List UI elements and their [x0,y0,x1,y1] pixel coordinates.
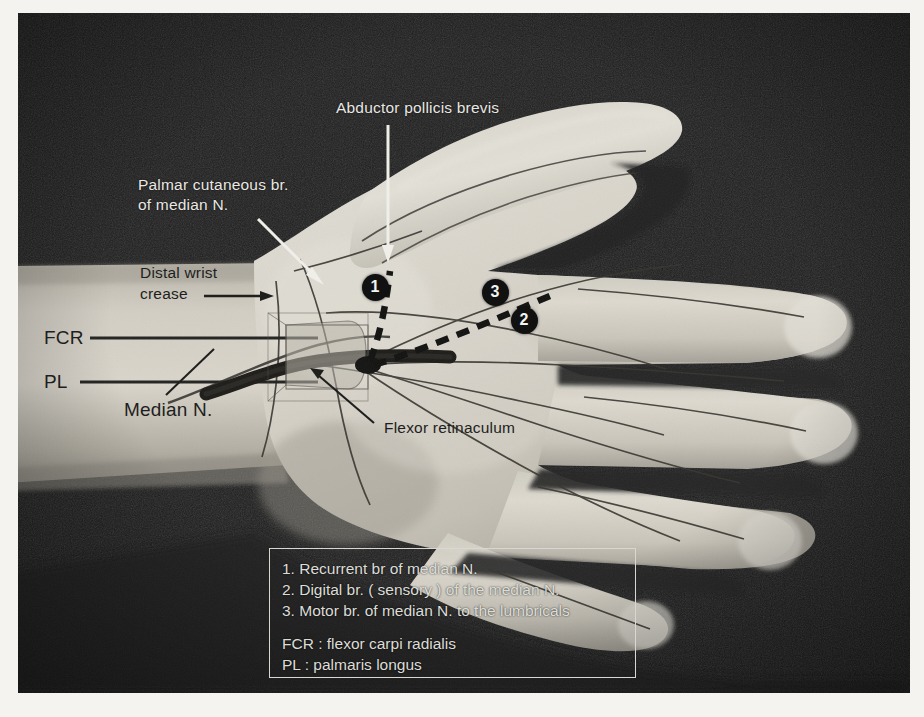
marker-3[interactable]: 3 [482,279,509,306]
legend-box: 1. Recurrent br of median N. 2. Digital … [269,548,636,678]
label-distal-wrist-crease-line2: crease [140,285,188,304]
page-margin-top [0,0,924,13]
abductor-pollicis-brevis-arrow [382,125,394,263]
label-flexor-retinaculum: Flexor retinaculum [384,419,515,438]
distal-wrist-crease-arrow [204,291,274,301]
legend-item-1: 1. Recurrent br of median N. [282,558,635,579]
legend-item-3: 3. Motor br. of median N. to the lumbric… [282,600,635,621]
median-nerve-leader [166,349,214,395]
marker-2[interactable]: 2 [511,307,538,334]
legend-abbrev-fcr: FCR : flexor carpi radialis [282,633,635,654]
legend-spacer [282,622,635,633]
marker-1[interactable]: 1 [362,274,389,301]
anatomy-photograph: Abductor pollicis brevis Palmar cutaneou… [18,13,910,693]
label-distal-wrist-crease-line1: Distal wrist [140,264,217,283]
label-abductor-pollicis-brevis: Abductor pollicis brevis [336,99,499,118]
flexor-retinaculum-arrow [310,368,374,423]
legend-abbrev-pl: PL : palmaris longus [282,654,635,675]
figure-page: Abductor pollicis brevis Palmar cutaneou… [0,0,924,717]
label-palmar-cutaneous-line1: Palmar cutaneous br. [138,176,288,195]
page-margin-left [0,0,18,717]
palmar-cutaneous-arrow [258,219,324,285]
label-pl: PL [44,370,68,393]
legend-item-2: 2. Digital br. ( sensory ) of the median… [282,579,635,600]
page-margin-bottom [0,693,924,717]
page-margin-right [910,0,924,717]
label-fcr: FCR [44,326,84,349]
label-median-nerve: Median N. [124,398,212,421]
label-palmar-cutaneous-line2: of median N. [138,196,228,215]
